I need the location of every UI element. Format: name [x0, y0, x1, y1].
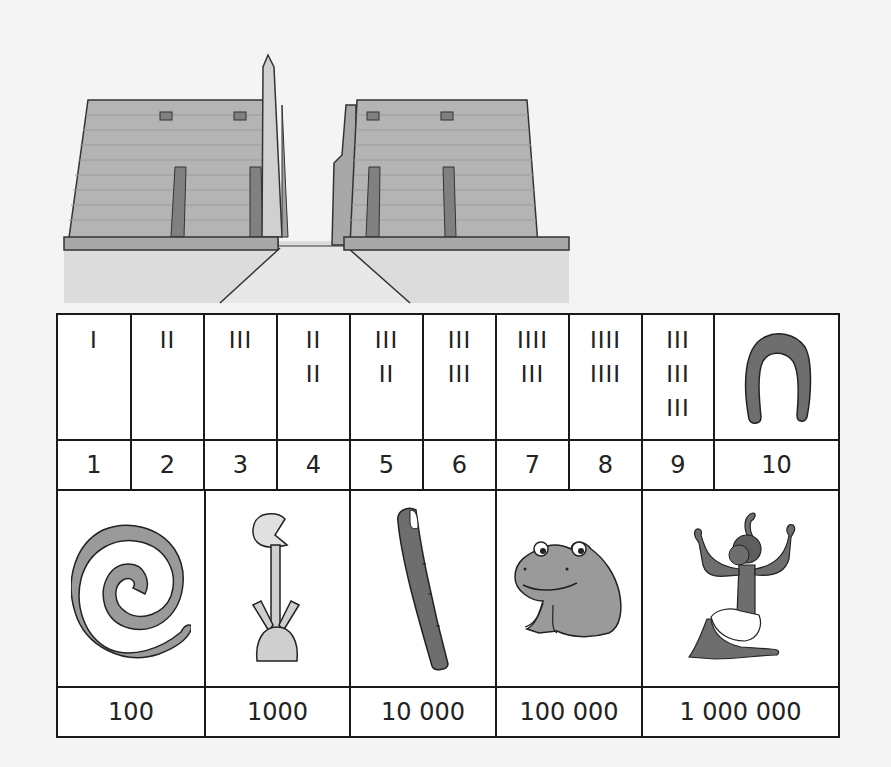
tally-stroke: I — [90, 327, 98, 353]
tally-stroke: IIII — [590, 361, 621, 387]
symbol-cell-100000 — [497, 491, 643, 686]
tally-cell-3: III — [205, 315, 278, 439]
value-label: 1 — [58, 441, 132, 489]
kneeling-god-icon — [681, 509, 801, 669]
value-label: 1 000 000 — [643, 688, 838, 736]
finger-icon — [388, 504, 458, 674]
tally-stroke: III — [375, 327, 398, 353]
tally-cell-9: III III III — [643, 315, 715, 439]
tally-stroke: II — [379, 361, 395, 387]
units-value-row: 1 2 3 4 5 6 7 8 9 10 — [58, 441, 838, 491]
tally-stroke: III — [666, 327, 689, 353]
tally-stroke: III — [666, 361, 689, 387]
value-label: 7 — [497, 441, 570, 489]
value-label: 10 000 — [351, 688, 497, 736]
value-label: 2 — [132, 441, 205, 489]
lotus-plant-icon — [243, 509, 313, 669]
tally-cell-6: III III — [424, 315, 497, 439]
tally-stroke: III — [229, 327, 252, 353]
temple-illustration — [60, 45, 580, 305]
egyptian-numerals-table: I II III II II III II III III IIII III I… — [56, 313, 840, 738]
value-label: 100 000 — [497, 688, 643, 736]
tally-cell-5: III II — [351, 315, 424, 439]
obelisk — [262, 55, 282, 237]
tally-stroke: III — [448, 361, 471, 387]
value-label: 6 — [424, 441, 497, 489]
value-label: 1000 — [206, 688, 351, 736]
symbol-cell-10000 — [351, 491, 497, 686]
value-label: 5 — [351, 441, 424, 489]
tally-stroke: II — [160, 327, 176, 353]
powers-symbol-row — [58, 491, 838, 688]
tally-stroke: IIII — [590, 327, 621, 353]
tally-cell-8: IIII IIII — [570, 315, 643, 439]
tally-cell-1: I — [58, 315, 132, 439]
coil-of-rope-icon — [71, 514, 191, 664]
symbol-cell-1000000 — [643, 491, 838, 686]
heel-bone-icon — [737, 327, 817, 427]
tally-cell-4: II II — [278, 315, 351, 439]
tally-stroke: III — [666, 395, 689, 421]
symbol-cell-100 — [58, 491, 206, 686]
tally-row: I II III II II III II III III IIII III I… — [58, 315, 838, 441]
tally-stroke: III — [521, 361, 544, 387]
tally-stroke: II — [306, 327, 322, 353]
tally-cell-7: IIII III — [497, 315, 570, 439]
value-label: 8 — [570, 441, 643, 489]
tally-cell-2: II — [132, 315, 205, 439]
value-label: 100 — [58, 688, 206, 736]
value-label: 4 — [278, 441, 351, 489]
frog-icon — [509, 529, 629, 649]
value-label: 10 — [715, 441, 838, 489]
powers-value-row: 100 1000 10 000 100 000 1 000 000 — [58, 688, 838, 736]
symbol-cell-10 — [715, 315, 838, 439]
value-label: 3 — [205, 441, 278, 489]
tally-stroke: III — [448, 327, 471, 353]
tally-stroke: II — [306, 361, 322, 387]
tally-stroke: IIII — [517, 327, 548, 353]
value-label: 9 — [643, 441, 715, 489]
symbol-cell-1000 — [206, 491, 351, 686]
